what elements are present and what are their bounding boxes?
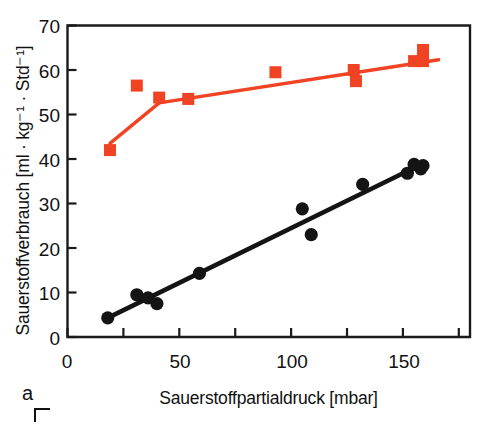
figure-panel-a: Sauerstoffverbrauch [ml · kg⁻¹ · Std⁻¹] … <box>0 0 494 424</box>
data-point-red <box>182 93 194 105</box>
data-point-black <box>130 288 143 301</box>
data-point-black <box>416 159 429 172</box>
data-point-red <box>417 44 429 56</box>
data-point-red <box>350 75 362 87</box>
data-point-red <box>269 66 281 78</box>
data-point-red <box>153 92 165 104</box>
data-point-black <box>296 202 309 215</box>
data-point-black <box>193 267 206 280</box>
data-point-black <box>150 297 163 310</box>
data-point-black <box>305 228 318 241</box>
data-point-red <box>348 64 360 76</box>
trendline-black <box>108 163 423 317</box>
x-axis-ticks <box>68 328 459 337</box>
data-point-black <box>356 178 369 191</box>
data-point-black <box>101 311 114 324</box>
data-points-red <box>104 44 429 156</box>
data-point-red <box>417 55 429 67</box>
data-point-red <box>104 144 116 156</box>
axis-frame <box>68 26 471 338</box>
y-axis-ticks <box>68 26 77 338</box>
plot-area <box>0 0 494 424</box>
data-point-red <box>131 80 143 92</box>
